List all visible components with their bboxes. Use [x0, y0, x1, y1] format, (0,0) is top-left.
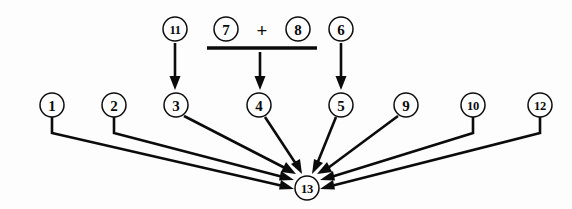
node-13-label: 13: [301, 182, 313, 196]
node-1[interactable]: 1: [40, 93, 64, 117]
plus-operator: +: [257, 20, 268, 41]
node-6[interactable]: 6: [329, 17, 353, 41]
node-2[interactable]: 2: [102, 93, 126, 117]
node-3[interactable]: 3: [164, 93, 188, 117]
edge-11-to-3: [170, 43, 181, 90]
node-11[interactable]: 11: [163, 17, 187, 41]
node-5-label: 5: [337, 98, 345, 114]
diagram-svg: + 11 7 8 6 1 2 3: [0, 0, 572, 209]
node-8[interactable]: 8: [286, 17, 310, 41]
edge-fraction-to-4: [255, 52, 266, 90]
node-8-label: 8: [294, 22, 302, 38]
diagram-canvas: + 11 7 8 6 1 2 3: [0, 0, 572, 209]
node-9-label: 9: [402, 98, 410, 114]
node-9[interactable]: 9: [394, 93, 418, 117]
node-13[interactable]: 13: [295, 176, 319, 200]
edge-12-to-13: [320, 117, 540, 190]
edge-9-to-13: [317, 116, 398, 174]
edge-10-to-13: [320, 117, 473, 181]
node-12[interactable]: 12: [528, 93, 552, 117]
node-3-label: 3: [172, 98, 180, 114]
node-6-label: 6: [337, 22, 345, 38]
node-12-label: 12: [534, 99, 546, 113]
node-10[interactable]: 10: [461, 93, 485, 117]
node-1-label: 1: [48, 98, 56, 114]
edge-4-to-13: [265, 117, 302, 174]
node-11-label: 11: [169, 23, 180, 37]
node-4[interactable]: 4: [247, 93, 271, 117]
node-10-label: 10: [467, 99, 479, 113]
node-7[interactable]: 7: [214, 17, 238, 41]
node-2-label: 2: [110, 98, 118, 114]
edge-6-to-5: [336, 43, 347, 90]
node-7-label: 7: [222, 22, 230, 38]
node-4-label: 4: [255, 98, 263, 114]
node-5[interactable]: 5: [329, 93, 353, 117]
